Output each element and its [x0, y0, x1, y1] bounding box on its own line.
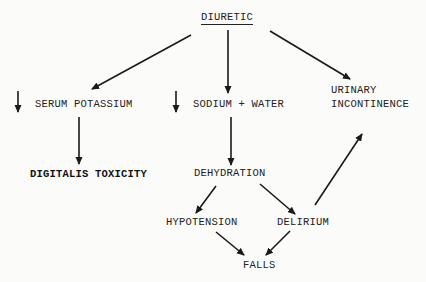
- arrow-diuretic-to-potassium: [92, 35, 191, 89]
- arrow-hypotension-to-falls: [216, 232, 244, 255]
- node-falls: FALLS: [243, 259, 276, 271]
- arrow-delirium-to-incontinence: [315, 134, 362, 205]
- node-hypotension: HYPOTENSION: [166, 216, 238, 228]
- node-sodium-water: SODIUM + WATER: [193, 98, 284, 110]
- node-delirium: DELIRIUM: [277, 216, 329, 228]
- node-digitalis-toxicity: DIGITALIS TOXICITY: [30, 168, 147, 180]
- arrow-dehydration-to-delirium: [260, 184, 295, 214]
- arrow-diuretic-to-incontinence: [270, 31, 350, 79]
- arrow-dehydration-to-hypotension: [196, 186, 216, 213]
- node-urinary: URINARY: [331, 84, 377, 96]
- node-dehydration: DEHYDRATION: [194, 167, 266, 179]
- node-diuretic: DIURETIC: [201, 11, 253, 25]
- node-serum-potassium: SERUM POTASSIUM: [35, 98, 133, 110]
- arrow-delirium-to-falls: [266, 231, 290, 255]
- node-incontinence: INCONTINENCE: [331, 98, 409, 110]
- diuretic-effects-diagram: DIURETIC SERUM POTASSIUM SODIUM + WATER …: [0, 0, 426, 282]
- diagram-arrows: [0, 0, 426, 282]
